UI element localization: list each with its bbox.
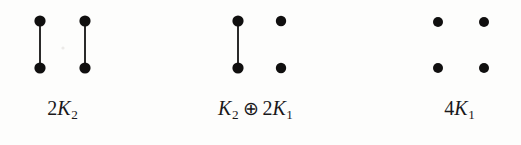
graph-vertex [34, 62, 45, 73]
graph-vertex [79, 15, 90, 26]
graph-vertex [433, 63, 443, 73]
graph-vertex [276, 63, 286, 73]
graph-vertex [34, 15, 45, 26]
graph-label-4K1: 4K1 [369, 98, 521, 121]
graph-vertex [433, 17, 443, 27]
graph-vertex [232, 15, 243, 26]
label-symbol: K [57, 97, 70, 119]
graph-vertex [276, 16, 286, 26]
graph-vertex [479, 17, 489, 27]
label-coefficient: 2 [47, 97, 57, 119]
label-subscript: 2 [71, 107, 78, 122]
graph-canvas-2K2 [0, 0, 175, 95]
graph-vertex [79, 62, 90, 73]
graph-vertex [232, 62, 243, 73]
graph-panel-K2-plus-2K1: K2⊕2K1 [175, 0, 340, 145]
graph-panel-4K1: 4K1 [340, 0, 521, 145]
scan-artifact [61, 46, 64, 49]
graph-canvas-4K1 [340, 0, 521, 95]
graph-label-2K2: 2K2 [0, 98, 150, 121]
label-right-subscript: 1 [286, 107, 293, 122]
label-subscript: 1 [468, 107, 475, 122]
graph-label-K2-plus-2K1: K2⊕2K1 [173, 98, 338, 121]
direct-sum-operator-icon: ⊕ [243, 98, 259, 119]
graph-figure: 2K2 K2⊕2K1 4K1 [0, 0, 521, 145]
label-symbol: K [454, 97, 467, 119]
label-right-coefficient: 2 [263, 97, 273, 119]
graph-panel-2K2: 2K2 [0, 0, 175, 145]
label-left-subscript: 2 [232, 107, 239, 122]
label-right-symbol: K [273, 97, 286, 119]
graph-vertex [479, 63, 489, 73]
label-coefficient: 4 [444, 97, 454, 119]
label-left-symbol: K [218, 97, 231, 119]
graph-canvas-K2-plus-2K1 [175, 0, 340, 95]
